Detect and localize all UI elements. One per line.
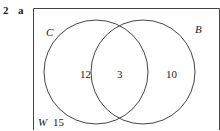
set-c-label: C bbox=[46, 26, 54, 38]
set-b-circle bbox=[91, 20, 195, 124]
universal-set-rectangle bbox=[34, 9, 220, 131]
universal-set-label: W bbox=[38, 116, 48, 128]
venn-diagram: C B 12 3 10 W 15 bbox=[0, 0, 220, 130]
set-b-label: B bbox=[195, 23, 202, 35]
region-only-b: 10 bbox=[166, 68, 178, 80]
region-outside: 15 bbox=[53, 116, 65, 128]
region-both: 3 bbox=[117, 68, 123, 80]
region-only-c: 12 bbox=[80, 68, 91, 80]
set-c-circle bbox=[44, 20, 148, 124]
